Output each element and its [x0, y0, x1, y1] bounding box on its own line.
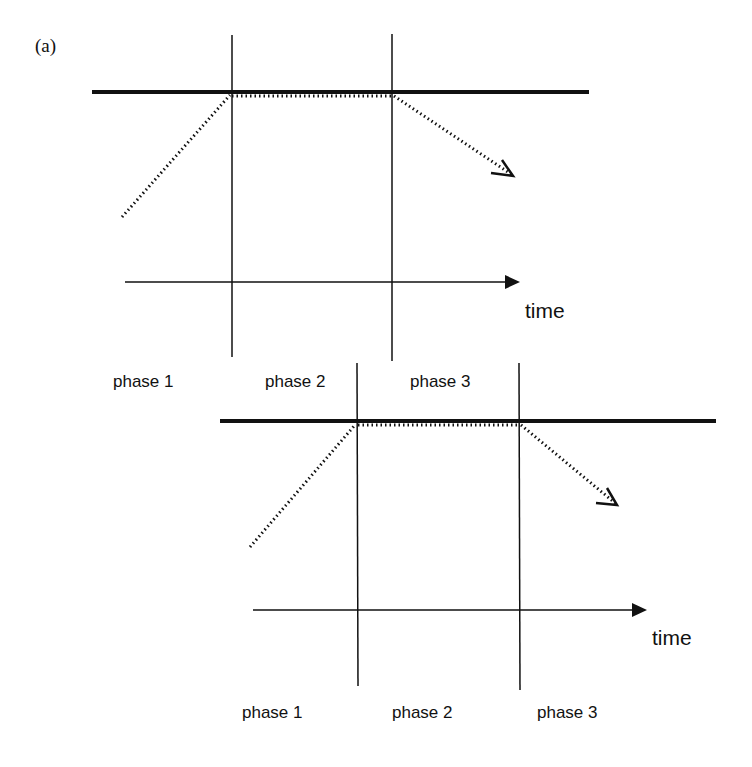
phase-label-1: phase 1	[242, 703, 303, 722]
open-chevron-arrow-icon	[596, 488, 617, 505]
phase-label-2: phase 2	[392, 703, 453, 722]
diagram-top: time phase 1 phase 2 phase 3	[92, 34, 589, 391]
phase-label-1: phase 1	[113, 372, 174, 391]
phase-boundary-2	[519, 363, 520, 690]
phase-diagram-figure: (a) time phase 1 phase 2 phase 3	[0, 0, 752, 767]
dotted-trajectory	[122, 95, 511, 217]
time-axis-label: time	[652, 626, 692, 649]
open-chevron-arrow-icon	[491, 160, 513, 176]
dotted-trajectory	[250, 425, 615, 547]
phase-label-3: phase 3	[537, 703, 598, 722]
phase-boundary-1	[357, 363, 358, 686]
filled-triangle-arrow-icon	[632, 603, 647, 617]
phase-label-3: phase 3	[410, 372, 471, 391]
phase-label-2: phase 2	[265, 372, 326, 391]
time-axis-label: time	[525, 299, 565, 322]
diagram-bottom: time phase 1 phase 2 phase 3	[220, 363, 716, 722]
filled-triangle-arrow-icon	[505, 275, 520, 289]
panel-label: (a)	[35, 35, 56, 57]
